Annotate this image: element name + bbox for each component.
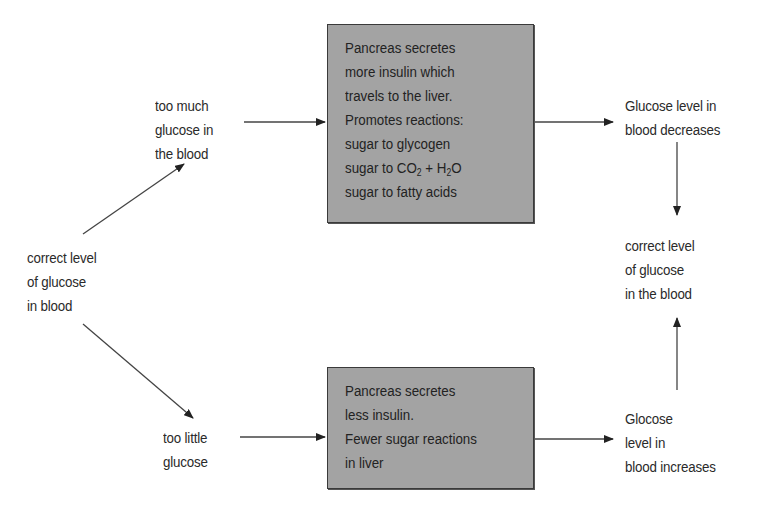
node-correct-level-start: correct level of glucose in blood: [27, 246, 97, 318]
box-line: in liver: [345, 451, 477, 475]
node-line: of glucose: [27, 270, 97, 294]
box-line: sugar to fatty acids: [345, 180, 464, 204]
node-too-much-glucose: too much glucose in the blood: [155, 94, 213, 166]
node-line: level in: [625, 431, 716, 455]
box-line: travels to the liver.: [345, 84, 464, 108]
node-line: in blood: [27, 294, 97, 318]
box-line: sugar to glycogen: [345, 132, 464, 156]
node-line: glucose in: [155, 118, 213, 142]
formula-text: + H: [422, 159, 447, 176]
node-line: in the blood: [625, 282, 695, 306]
formula-text: sugar to CO: [345, 159, 417, 176]
node-too-little-glucose: too little glucose: [163, 426, 208, 474]
formula-text: O: [451, 159, 461, 176]
box-line: Pancreas secretes: [345, 36, 464, 60]
node-line: blood increases: [625, 455, 716, 479]
node-line: too little: [163, 426, 208, 450]
node-line: Glocose: [625, 407, 716, 431]
box-line: more insulin which: [345, 60, 464, 84]
box-line: Fewer sugar reactions: [345, 427, 477, 451]
box-line: Promotes reactions:: [345, 108, 464, 132]
node-line: too much: [155, 94, 213, 118]
arrow-start-to-too-much: [83, 164, 184, 234]
box-more-insulin: Pancreas secretes more insulin which tra…: [327, 24, 534, 223]
node-glucose-increases: Glocose level in blood increases: [625, 407, 716, 479]
node-line: of glucose: [625, 258, 695, 282]
node-line: Glucose level in: [625, 94, 720, 118]
node-line: glucose: [163, 450, 208, 474]
box-line: Pancreas secretes: [345, 379, 477, 403]
node-line: blood decreases: [625, 118, 720, 142]
node-line: correct level: [27, 246, 97, 270]
node-line: correct level: [625, 234, 695, 258]
arrow-start-to-too-little: [83, 324, 193, 418]
box-line-reaction-co2: sugar to CO2 + H2O: [345, 156, 464, 180]
node-line: the blood: [155, 142, 213, 166]
box-line: less insulin.: [345, 403, 477, 427]
node-correct-level-end: correct level of glucose in the blood: [625, 234, 695, 306]
node-glucose-decreases: Glucose level in blood decreases: [625, 94, 720, 142]
box-less-insulin: Pancreas secretes less insulin. Fewer su…: [327, 367, 534, 489]
